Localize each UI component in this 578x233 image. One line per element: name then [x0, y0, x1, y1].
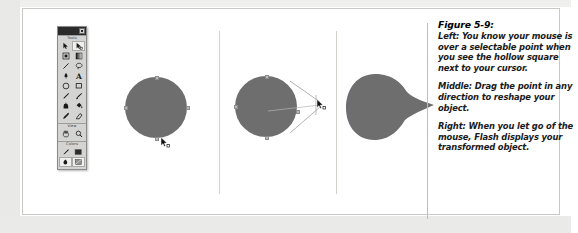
lasso-icon[interactable] [72, 61, 85, 71]
cursor-arrow-hollow-square-middle [316, 99, 326, 111]
ink-bottle-icon[interactable] [59, 101, 72, 111]
cursor-arrow-hollow-square-left [160, 137, 170, 149]
toolbar-section-tools: Tools [58, 35, 86, 123]
hand-icon[interactable] [59, 129, 72, 139]
panel-divider-2 [336, 31, 337, 194]
svg-text:A: A [75, 72, 82, 80]
gradient-box-icon[interactable] [72, 51, 85, 61]
anchor-point [155, 137, 159, 141]
white-arrow-icon[interactable] [72, 41, 85, 51]
circle-shape-left [125, 77, 187, 138]
anchor-point [234, 105, 238, 109]
anchor-point [296, 110, 300, 114]
toolbar-section-view: View [58, 123, 86, 141]
fill-swatch-icon[interactable] [72, 147, 85, 157]
anchor-point [186, 106, 190, 110]
anchor-point [155, 76, 159, 80]
flash-tools-panel[interactable]: Tools [57, 26, 87, 170]
text-a-icon[interactable]: A [72, 71, 85, 81]
paint-bucket-icon[interactable] [72, 101, 85, 111]
no-color-icon[interactable] [72, 157, 85, 167]
toolbar-section-colors: Colors [58, 141, 86, 169]
figure-plate: Tools [22, 8, 560, 215]
brush-icon[interactable] [72, 91, 85, 101]
teardrop-shape-right [345, 72, 435, 142]
pencil-icon[interactable] [59, 91, 72, 101]
panel-divider-1 [219, 31, 220, 194]
figure-number: Figure 5-9: [438, 20, 578, 31]
oval-icon[interactable] [59, 81, 72, 91]
toolbar-titlebar[interactable] [58, 27, 86, 35]
drag-guide-lines [228, 67, 328, 147]
anchor-point [124, 106, 128, 110]
pencil-stroke-icon[interactable] [59, 147, 72, 157]
transform-box-icon[interactable] [59, 51, 72, 61]
arrow-icon[interactable] [59, 41, 72, 51]
toolbar-view-grid [58, 129, 86, 140]
caption-paragraph-left: Figure 5-9:Left: You know your mouse is … [438, 20, 578, 73]
scan-margin-top [0, 0, 571, 7]
anchor-point [265, 136, 269, 140]
scan-margin-bottom [0, 216, 571, 233]
line-icon[interactable] [59, 61, 72, 71]
black-white-icon[interactable] [59, 157, 72, 167]
pen-icon[interactable] [59, 71, 72, 81]
caption-text-right: Right: When you let go of the mouse, Fla… [438, 121, 578, 153]
caption-text-middle: Middle: Drag the point in any direction … [438, 81, 578, 113]
eyedropper-icon[interactable] [59, 111, 72, 121]
close-icon[interactable] [79, 28, 85, 34]
magnifier-icon[interactable] [72, 129, 85, 139]
anchor-point [265, 75, 269, 79]
caption-text-left: Left: You know your mouse is over a sele… [438, 31, 572, 73]
scan-margin-left [0, 0, 20, 233]
toolbar-tools-grid: A [58, 41, 86, 122]
figure-caption: Figure 5-9:Left: You know your mouse is … [438, 20, 578, 153]
rectangle-icon[interactable] [72, 81, 85, 91]
eraser-icon[interactable] [72, 111, 85, 121]
toolbar-colors-grid [58, 147, 86, 168]
caption-divider [427, 23, 428, 219]
